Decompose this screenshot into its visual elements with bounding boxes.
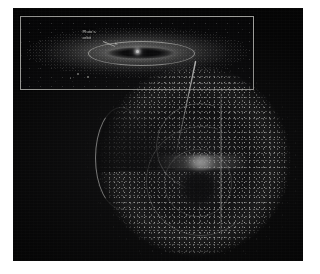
figure-plate: Pluto's orbit: [13, 8, 303, 261]
left-limb-crescent: [95, 107, 147, 209]
inset-stray-object: [70, 77, 71, 78]
inner-solar-system-core: [183, 151, 216, 174]
pluto-orbit-label: Pluto's orbit: [82, 29, 95, 40]
oort-cloud-sphere: [97, 65, 293, 257]
